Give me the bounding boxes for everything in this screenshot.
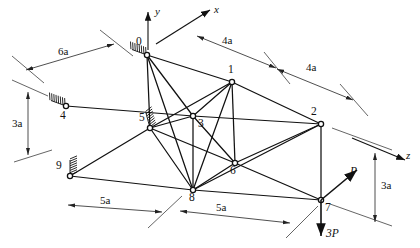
joint-label-1: 1: [228, 64, 234, 76]
ext-5a-mid: [148, 196, 182, 228]
joint-label-4: 4: [60, 110, 66, 122]
z-axis: [352, 138, 405, 160]
member-3-4: [66, 106, 193, 116]
joint-label-5: 5: [139, 112, 145, 124]
dim-4a-upper-right-label: 4a: [306, 62, 316, 73]
joint-0: [144, 52, 149, 57]
dim-3a-left-label: 3a: [12, 118, 22, 129]
dimension-lines: [26, 36, 375, 223]
ext-6a-upper: [100, 30, 133, 56]
dim-4a-upper-right: [277, 69, 353, 100]
dim-4a-upper-left-label: 4a: [222, 35, 232, 46]
joint-label-7: 7: [325, 202, 331, 214]
dim-6a-label: 6a: [58, 46, 68, 57]
member-1-2: [232, 82, 321, 124]
joint-9: [67, 173, 72, 178]
member-1-6: [232, 82, 235, 163]
member-5-9: [70, 128, 150, 176]
x-axis: [156, 10, 210, 44]
coordinate-axes: [148, 10, 405, 160]
dim-5a-lower-right: [180, 211, 290, 223]
ext-3a-left-bot: [14, 150, 52, 162]
joint-label-8: 8: [189, 192, 195, 204]
load-3P-label: 3P: [326, 228, 339, 240]
load-P-label: P: [350, 166, 357, 178]
joint-4: [63, 103, 68, 108]
joint-3: [190, 113, 195, 118]
member-0-3: [147, 55, 193, 116]
joint-label-2: 2: [311, 106, 317, 118]
joint-label-0: 0: [136, 36, 142, 48]
x-axis-label: x: [214, 4, 219, 15]
dim-6a: [26, 44, 114, 70]
joint-label-6: 6: [230, 165, 236, 177]
joint-5: [147, 125, 152, 130]
joint-label-9: 9: [56, 160, 62, 172]
dim-5a-lower-left-label: 5a: [100, 195, 110, 206]
ext-3a-right-top: [332, 128, 392, 150]
truss-diagram-svg: [0, 0, 420, 248]
ext-4a-right: [340, 84, 368, 116]
joint-label-3: 3: [198, 118, 204, 130]
ext-3a-right-bot: [330, 204, 392, 226]
member-1-5: [150, 82, 232, 128]
dim-5a-lower-right-label: 5a: [216, 202, 226, 213]
ext-5a-right: [286, 206, 318, 238]
extension-lines: [12, 30, 392, 238]
member-2-6: [235, 124, 321, 163]
member-2-3: [193, 116, 321, 124]
truss-members: [66, 55, 321, 200]
member-6-8: [193, 163, 235, 190]
dim-3a-right-label: 3a: [381, 180, 391, 191]
member-8-9: [70, 176, 193, 190]
dim-5a-lower-left: [68, 205, 162, 212]
member-0-1: [147, 55, 232, 82]
joint-1: [229, 79, 234, 84]
member-2-8: [193, 124, 321, 190]
figure-canvas: 6a4a4a3a5a5a3a0123456789yxzP3P: [0, 0, 420, 248]
y-axis-label: y: [155, 6, 160, 17]
z-axis-label: z: [406, 150, 410, 161]
joint-2: [318, 121, 323, 126]
ext-4a-mid: [264, 52, 290, 84]
ext-3a-left-top: [12, 80, 48, 96]
